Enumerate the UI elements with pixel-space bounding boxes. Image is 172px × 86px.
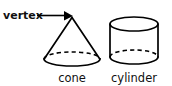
cylinder-bottom-front-arc (110, 57, 158, 64)
vertex-annotation: vertex (3, 9, 73, 22)
cone-shape: cone (44, 18, 100, 86)
cone-caption: cone (58, 71, 86, 85)
cone-base-hidden-arc (44, 52, 100, 59)
geometry-figure: vertex cone cyli (0, 0, 172, 85)
cylinder-bottom-hidden-arc (110, 50, 158, 57)
vertex-label: vertex (3, 9, 43, 22)
shapes-canvas: vertex cone cyli (0, 0, 172, 85)
cylinder-caption: cylinder (111, 71, 157, 85)
cone-base-front-arc (44, 59, 100, 66)
cone-right-slant (72, 18, 100, 60)
cylinder-top-ellipse (110, 17, 158, 31)
cylinder-shape: cylinder (110, 17, 158, 85)
